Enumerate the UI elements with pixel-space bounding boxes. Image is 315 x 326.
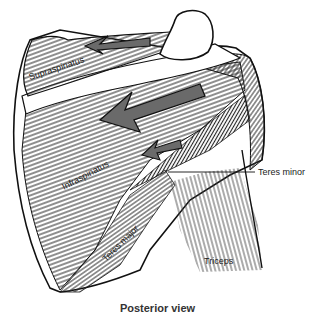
acromion [160,11,213,60]
label-triceps: Triceps [204,256,234,266]
shoulder-posterior-illustration: Supraspinatus Infraspinatus Teres major … [0,0,315,326]
figure-caption: Posterior view [0,302,315,314]
label-teres-minor: Teres minor [258,167,305,177]
